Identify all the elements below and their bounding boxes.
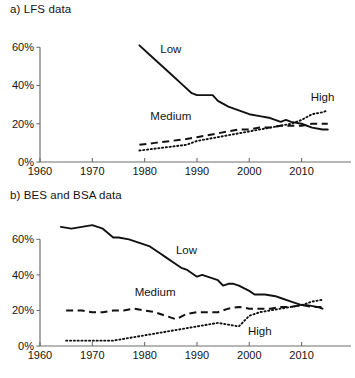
panel-a-plot: 0%20%40%60%196019701980199020002010LowMe… — [0, 0, 355, 189]
x-tick-label: 2000 — [237, 349, 261, 361]
series-label-medium: Medium — [135, 286, 176, 298]
series-label-low: Low — [176, 244, 198, 256]
x-tick-label: 1970 — [80, 349, 104, 361]
x-tick-label: 1980 — [132, 349, 156, 361]
x-tick-label: 1990 — [185, 165, 209, 177]
x-tick-label: 1960 — [28, 165, 52, 177]
y-tick-label: 60% — [12, 41, 34, 53]
x-tick-label: 2010 — [289, 165, 313, 177]
panel-b-plot: 0%20%40%60%196019701980199020002010LowMe… — [0, 186, 355, 378]
y-tick-label: 20% — [12, 304, 34, 316]
x-tick-label: 1980 — [132, 165, 156, 177]
x-tick-label: 1970 — [80, 165, 104, 177]
series-label-high: High — [311, 91, 335, 103]
chart-panel-a: a) LFS data 0%20%40%60%19601970198019902… — [0, 0, 355, 189]
x-tick-label: 2000 — [237, 165, 261, 177]
y-tick-label: 20% — [12, 118, 34, 130]
series-label-medium: Medium — [150, 110, 191, 122]
figure-panel-group: a) LFS data 0%20%40%60%19601970198019902… — [0, 0, 355, 378]
x-tick-label: 2010 — [289, 349, 313, 361]
series-line-low — [61, 225, 323, 309]
x-tick-label: 1990 — [185, 349, 209, 361]
y-tick-label: 40% — [12, 79, 34, 91]
series-label-low: Low — [160, 43, 182, 55]
chart-panel-b: b) BES and BSA data 0%20%40%60%196019701… — [0, 186, 355, 378]
x-tick-label: 1960 — [28, 349, 52, 361]
y-tick-label: 40% — [12, 269, 34, 281]
series-label-high: High — [248, 325, 272, 337]
y-tick-label: 60% — [12, 233, 34, 245]
